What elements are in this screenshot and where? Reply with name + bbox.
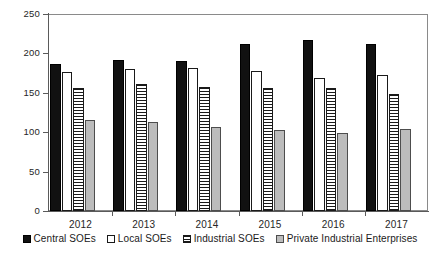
- legend-item-industrial: Industrial SOEs: [183, 233, 265, 244]
- y-axis-tick-mark: [43, 211, 48, 212]
- bars-layer: [49, 14, 428, 211]
- x-axis-separator-tick: [175, 211, 176, 216]
- legend-label-local: Local SOEs: [118, 233, 172, 244]
- legend-item-local: Local SOEs: [107, 233, 172, 244]
- legend-label-industrial: Industrial SOEs: [194, 233, 265, 244]
- legend-swatch-private-icon: [276, 235, 284, 243]
- legend-swatch-local-icon: [107, 235, 115, 243]
- x-axis-separator-tick: [302, 211, 303, 216]
- y-axis-tick-mark: [43, 53, 48, 54]
- y-axis-tick-label: 50: [0, 167, 40, 177]
- bar-private-2017: [400, 129, 411, 211]
- legend-label-central: Central SOEs: [34, 233, 96, 244]
- legend-label-private: Private Industrial Enterprises: [287, 233, 418, 244]
- bar-local-2017: [377, 75, 388, 211]
- x-axis-separator-tick: [239, 211, 240, 216]
- y-axis-tick-mark: [43, 172, 48, 173]
- x-axis-label-2017: 2017: [365, 219, 428, 230]
- y-axis-tick-label: 100: [0, 127, 40, 137]
- legend-item-central: Central SOEs: [23, 233, 96, 244]
- x-axis-label-2015: 2015: [239, 219, 302, 230]
- bar-group-2017: [49, 14, 428, 211]
- legend-item-private: Private Industrial Enterprises: [276, 233, 418, 244]
- bar-central-2017: [366, 44, 377, 211]
- x-axis-label-2016: 2016: [302, 219, 365, 230]
- x-axis-label-2013: 2013: [112, 219, 175, 230]
- x-axis-label-2014: 2014: [175, 219, 238, 230]
- chart-legend: Central SOEsLocal SOEsIndustrial SOEsPri…: [0, 233, 440, 244]
- x-axis-separator-tick: [365, 211, 366, 216]
- legend-swatch-central-icon: [23, 235, 31, 243]
- bar-industrial-2017: [389, 94, 400, 211]
- x-axis-label-2012: 2012: [49, 219, 112, 230]
- y-axis-tick-label: 150: [0, 88, 40, 98]
- y-axis-tick-label: 200: [0, 48, 40, 58]
- legend-swatch-industrial-icon: [183, 235, 191, 243]
- x-axis-separator-tick: [112, 211, 113, 216]
- y-axis-tick-mark: [43, 93, 48, 94]
- bar-chart: 050100150200250 201220132014201520162017…: [0, 0, 440, 257]
- y-axis-tick-mark: [43, 132, 48, 133]
- y-axis-tick-mark: [43, 14, 48, 15]
- y-axis-tick-label: 0: [0, 206, 40, 216]
- y-axis-tick-label: 250: [0, 9, 40, 19]
